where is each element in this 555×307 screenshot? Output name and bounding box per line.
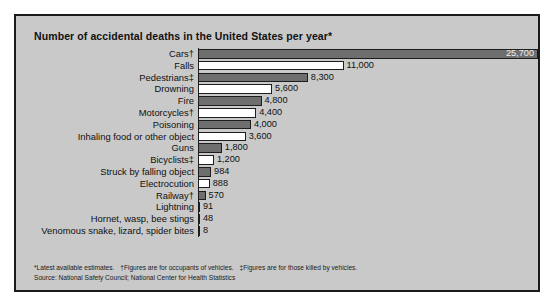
bar-category-label: Inhaling food or other object [78, 131, 194, 143]
page-title: Number of accidental deaths in the Unite… [34, 30, 332, 42]
bar-value-label: 1,200 [214, 154, 240, 166]
bar-value-label: 48 [200, 213, 213, 225]
bar-track: 984 [198, 166, 538, 178]
bar-value-label: 4,400 [256, 107, 282, 119]
bar-row: Bicyclists‡1,200 [16, 154, 538, 166]
bar-value-label: 8 [200, 225, 208, 237]
chart-panel: Number of accidental deaths in the Unite… [14, 14, 540, 292]
bar-category-label: Poisoning [153, 119, 194, 131]
bar-track: 4,800 [198, 95, 538, 107]
bar-value-label: 888 [210, 178, 228, 190]
bar-value-label: 984 [211, 166, 229, 178]
bar-category-label: Hornet, wasp, bee stings [91, 213, 194, 225]
bar [198, 179, 210, 189]
bar-category-label: Cars† [169, 48, 194, 60]
bar-category-label: Struck by falling object [100, 166, 194, 178]
bar-category-label: Pedestrians‡ [139, 72, 194, 84]
bar-track: 5,600 [198, 83, 538, 95]
bar-category-label: Railway† [156, 190, 194, 202]
footnote-double-dagger: ‡Figures are for those killed by vehicle… [240, 264, 358, 271]
bar-row: Inhaling food or other object3,600 [16, 131, 538, 143]
bar-track: 4,400 [198, 107, 538, 119]
bar-value-label: 11,000 [344, 60, 374, 72]
bar-track: 3,600 [198, 131, 538, 143]
bar [198, 143, 222, 153]
bar-row: Falls11,000 [16, 60, 538, 72]
bar-value-label: 8,300 [308, 72, 334, 84]
footnote-asterisk: *Latest available estimates. [34, 264, 114, 271]
bar-track: 570 [198, 190, 538, 202]
bar-row: Railway†570 [16, 190, 538, 202]
footnote-source: Source: National Safety Council; Nationa… [34, 273, 528, 283]
bar-category-label: Drowning [154, 83, 194, 95]
bar-value-label: 3,600 [246, 131, 272, 143]
bar-track: 8 [198, 225, 538, 237]
bar-row: Fire4,800 [16, 95, 538, 107]
bar-category-label: Fire [178, 95, 194, 107]
bar-track: 1,800 [198, 142, 538, 154]
bar-value-label: 1,800 [222, 142, 248, 154]
bar-track: 4,000 [198, 119, 538, 131]
bar-chart-plot-area: Cars†25,700Falls11,000Pedestrians‡8,300D… [16, 48, 538, 244]
bar-row: Lightning91 [16, 201, 538, 213]
bar [198, 108, 256, 118]
bar-category-label: Lightning [156, 201, 194, 213]
bar [198, 167, 211, 177]
bar [198, 73, 308, 83]
bar-category-label: Electrocution [140, 178, 194, 190]
bar-row: Venomous snake, lizard, spider bites8 [16, 225, 538, 237]
bar-row: Poisoning4,000 [16, 119, 538, 131]
bar-value-label: 4,800 [262, 95, 288, 107]
bar-category-label: Guns [172, 142, 194, 154]
bar-value-label: 25,700 [506, 48, 538, 60]
footnote-dagger: †Figures are for occupants of vehicles. [120, 264, 233, 271]
bar-row: Hornet, wasp, bee stings48 [16, 213, 538, 225]
bar-track: 48 [198, 213, 538, 225]
bar-value-label: 570 [206, 190, 224, 202]
bar-row: Electrocution888 [16, 178, 538, 190]
bar-category-label: Motorcycles† [139, 107, 194, 119]
bar [198, 49, 538, 59]
bar [198, 96, 262, 106]
bar-track: 1,200 [198, 154, 538, 166]
bar-row: Cars†25,700 [16, 48, 538, 60]
bar [198, 132, 246, 142]
bar-category-label: Venomous snake, lizard, spider bites [41, 225, 194, 237]
bar [198, 191, 206, 201]
bar-value-label: 4,000 [251, 119, 277, 131]
bar-track: 8,300 [198, 72, 538, 84]
bar-category-label: Bicyclists‡ [150, 154, 194, 166]
footnotes: *Latest available estimates.†Figures are… [34, 263, 528, 282]
bar-value-label: 91 [200, 201, 213, 213]
bar [198, 84, 272, 94]
bar-rows: Cars†25,700Falls11,000Pedestrians‡8,300D… [16, 48, 538, 237]
bar-row: Guns1,800 [16, 142, 538, 154]
footnote-line-1: *Latest available estimates.†Figures are… [34, 263, 528, 273]
bar-row: Motorcycles†4,400 [16, 107, 538, 119]
bar [198, 61, 344, 71]
bar-track: 11,000 [198, 60, 538, 72]
bar-row: Struck by falling object984 [16, 166, 538, 178]
bar [198, 120, 251, 130]
bar-row: Drowning5,600 [16, 83, 538, 95]
bar-track: 888 [198, 178, 538, 190]
bar-row: Pedestrians‡8,300 [16, 72, 538, 84]
bar-track: 25,700 [198, 48, 538, 60]
bar-category-label: Falls [174, 60, 194, 72]
bar-track: 91 [198, 201, 538, 213]
bar-value-label: 5,600 [272, 83, 298, 95]
bar [198, 155, 214, 165]
chart-page: Number of accidental deaths in the Unite… [0, 0, 555, 307]
